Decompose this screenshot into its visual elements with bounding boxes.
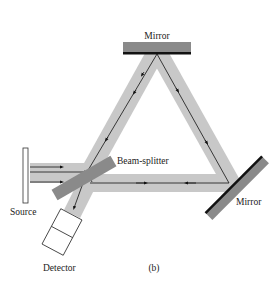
beam-splitter-label: Beam-splitter	[117, 156, 170, 166]
source-label: Source	[10, 207, 36, 217]
detector-label: Detector	[43, 263, 77, 273]
source	[23, 148, 28, 203]
sagnac-interferometer-diagram: Mirror Mirror Beam-splitter Source Detec…	[0, 0, 273, 284]
top-mirror	[123, 42, 191, 55]
panel-label: (b)	[148, 263, 159, 274]
right-mirror-label: Mirror	[236, 197, 262, 207]
top-mirror-label: Mirror	[144, 31, 170, 41]
